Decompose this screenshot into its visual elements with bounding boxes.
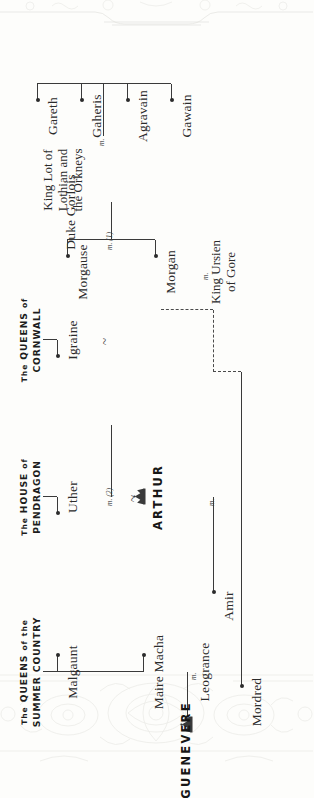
node-dot-amir [211,590,215,594]
connector-dashed-morgan-arthur [161,309,213,310]
node-dot-morgan [153,254,157,258]
house-caption-pendragon: The HOUSE of PENDRAGON [17,458,44,535]
connector-igraine-gorlois [111,202,112,240]
node-dot-morgause [65,254,69,258]
house-caption-summer-country: The QUEENS of the SUMMER COUNTRY [17,616,44,727]
connector-uther-igraine [111,425,112,497]
person-guenevere: GUENEVERE [179,701,193,798]
house-caption-the: The [20,363,29,381]
house-caption-house: HOUSE [18,472,29,512]
house-caption-cornwall-line2: CORNWALL [30,297,43,382]
person-leogrance: Leogrance [197,642,213,701]
person-igraine: Igraine [65,320,81,360]
house-caption-the: The [20,706,29,724]
connector-arthur-amir [213,497,214,592]
person-king-ursien-line1: King Ursien [209,240,224,304]
connector-gorlois-spine [111,239,155,240]
connector-summer-stem [43,671,57,672]
person-king-lot-line2: Lothian and [55,148,70,211]
house-caption-cornwall: The QUEENS of CORNWALL [17,297,44,382]
marriage-mark-arthur-guenevere: m. [207,498,216,505]
person-king-ursien-line2: of Gore [223,240,238,304]
house-caption-of: of [20,297,29,307]
tilde-igraine-right: ~ [97,337,113,344]
house-caption-summer-country-line2: SUMMER COUNTRY [30,616,43,727]
node-dot-gawain [169,98,173,102]
person-king-lot: King Lot of Lothian and the Orkneys [41,148,86,211]
house-caption-queens: QUEENS [18,312,29,360]
house-caption-of: of [20,458,29,468]
marriage-mark-uther-igraine: m. (2) [105,488,114,506]
connector-mordred [241,372,242,686]
person-king-lot-line3: the Orkneys [70,148,85,211]
marriage-mark-igraine-gorlois: m. (1) [105,232,114,250]
person-malgaunt: Malgaunt [65,645,81,698]
person-king-lot-line1: King Lot of [41,148,56,211]
node-dot-igraine [55,354,59,358]
house-caption-the: The [20,517,29,535]
node-dot-malgaunt [55,653,59,657]
person-maire-macha: Maire Macha [151,634,167,709]
person-amir: Amir [221,591,237,620]
house-caption-of: of [20,640,29,650]
connector-pendragon-stem [43,496,57,497]
connector-dashed-to-arthur [213,310,214,372]
connector-summer-arm-maire [143,656,144,672]
person-uther: Uther [65,481,81,513]
crown-icon-arthur [133,487,146,506]
person-gaheris: Gaheris [89,94,105,137]
person-gareth: Gareth [45,97,61,135]
genealogy-chart: The QUEENS of the SUMMER COUNTRY The HOU… [1,1,314,772]
person-arthur: ARTHUR [151,463,165,529]
connector-gorlois-spine-up [67,239,111,240]
connector-summer-arm-malgaunt [57,656,58,672]
node-dot-maire-macha [141,653,145,657]
person-morgause: Morgause [75,244,91,299]
person-gawain: Gawain [179,94,195,137]
house-caption-the2: the [20,619,29,636]
node-dot-gaheris [79,98,83,102]
person-king-ursien: King Ursien of Gore [209,240,238,304]
marriage-mark-morgause-lot: m. [97,138,106,145]
person-mordred: Mordred [249,677,265,726]
house-caption-queens: QUEENS [18,654,29,702]
connector-orkney-spine [37,83,171,84]
connector-cornwall-stem [43,339,57,340]
node-dot-uther [55,511,59,515]
connector-dashed-down [213,371,241,372]
node-dot-agravain [125,98,129,102]
person-morgan: Morgan [163,250,179,294]
person-agravain: Agravain [135,90,151,142]
node-dot-mordred [239,684,243,688]
node-dot-gareth [35,98,39,102]
house-caption-pendragon-line2: PENDRAGON [30,458,43,535]
